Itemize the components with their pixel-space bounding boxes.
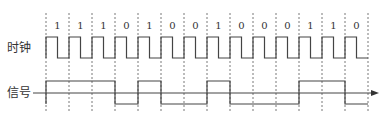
bit-label: 1 bbox=[207, 20, 230, 32]
bit-label: 1 bbox=[299, 20, 322, 32]
bit-label: 1 bbox=[46, 20, 69, 32]
axis-arrow-icon bbox=[371, 90, 379, 96]
bit-label: 1 bbox=[322, 20, 345, 32]
diagram-canvas bbox=[0, 0, 390, 116]
bit-label: 1 bbox=[138, 20, 161, 32]
bit-label: 1 bbox=[92, 20, 115, 32]
bit-label: 0 bbox=[276, 20, 299, 32]
clock-waveform bbox=[46, 37, 368, 58]
bit-label: 0 bbox=[345, 20, 368, 32]
bit-label: 0 bbox=[253, 20, 276, 32]
bit-label: 0 bbox=[230, 20, 253, 32]
bit-label: 0 bbox=[115, 20, 138, 32]
bit-label: 0 bbox=[184, 20, 207, 32]
bit-label: 0 bbox=[161, 20, 184, 32]
clock-row-label: 时钟 bbox=[7, 41, 31, 55]
signal-row-label: 信号 bbox=[7, 86, 31, 100]
bit-label: 1 bbox=[69, 20, 92, 32]
